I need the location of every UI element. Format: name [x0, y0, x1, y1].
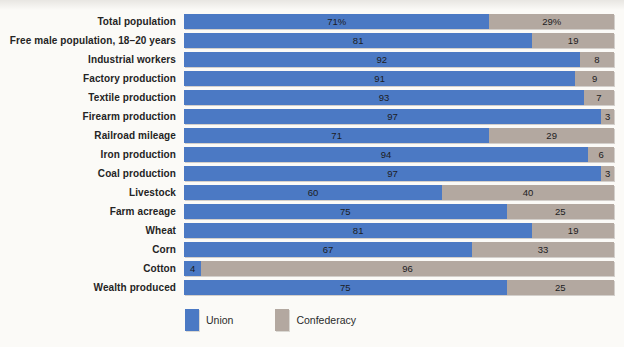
bar-track: 919 [184, 71, 614, 86]
confederacy-value-label: 9 [592, 71, 597, 86]
union-value-label: 97 [387, 109, 398, 124]
category-label: Livestock [6, 187, 184, 198]
bar-track: 8119 [184, 33, 614, 48]
chart-row: Iron production946 [6, 147, 614, 162]
bar-track: 6040 [184, 185, 614, 200]
confederacy-value-label: 3 [605, 166, 610, 181]
category-label: Factory production [6, 73, 184, 84]
confederacy-value-label: 7 [596, 90, 601, 105]
category-label: Cotton [6, 263, 184, 274]
category-label: Total population [6, 16, 184, 27]
chart-row: Wheat8119 [6, 223, 614, 238]
union-bar-segment: 92 [184, 52, 580, 67]
chart-row: Wealth produced7525 [6, 280, 614, 295]
chart-row: Free male population, 18–20 years8119 [6, 33, 614, 48]
confederacy-value-label: 33 [538, 242, 549, 257]
bar-track: 7525 [184, 204, 614, 219]
union-value-label: 92 [377, 52, 388, 67]
confederacy-value-label: 3 [605, 109, 610, 124]
category-label: Coal production [6, 168, 184, 179]
category-label: Wealth produced [6, 282, 184, 293]
chart-row: Industrial workers928 [6, 52, 614, 67]
confederacy-bar-segment: 40 [442, 185, 614, 200]
union-value-label: 71% [327, 14, 346, 29]
category-label: Corn [6, 244, 184, 255]
bar-track: 7129 [184, 128, 614, 143]
union-value-label: 93 [379, 90, 390, 105]
bar-track: 6733 [184, 242, 614, 257]
category-label: Firearm production [6, 111, 184, 122]
confederacy-value-label: 40 [523, 185, 534, 200]
union-bar-segment: 91 [184, 71, 575, 86]
chart-row: Livestock6040 [6, 185, 614, 200]
chart-row: Coal production973 [6, 166, 614, 181]
figure-caption-clipped: RESOURCES OF THE UNION AND THE CONFEDERA… [0, 342, 590, 347]
union-value-label: 4 [190, 261, 195, 276]
union-bar-segment: 81 [184, 33, 532, 48]
confederacy-bar-segment: 19 [532, 33, 614, 48]
union-bar-segment: 75 [184, 280, 507, 295]
union-value-label: 94 [381, 147, 392, 162]
category-label: Textile production [6, 92, 184, 103]
bar-track: 946 [184, 147, 614, 162]
bar-track: 8119 [184, 223, 614, 238]
union-legend-label: Union [206, 314, 233, 326]
union-value-label: 91 [374, 71, 385, 86]
chart-row: Total population71%29% [6, 14, 614, 29]
confederacy-bar-segment: 7 [584, 90, 614, 105]
union-bar-segment: 67 [184, 242, 472, 257]
confederacy-value-label: 96 [402, 261, 413, 276]
category-label: Industrial workers [6, 54, 184, 65]
confederacy-bar-segment: 6 [588, 147, 614, 162]
union-value-label: 71 [331, 128, 342, 143]
confederacy-bar-segment: 25 [507, 204, 615, 219]
bar-track: 71%29% [184, 14, 614, 29]
chart-row: Textile production937 [6, 90, 614, 105]
confederacy-bar-segment: 25 [507, 280, 615, 295]
confederacy-bar-segment: 29% [489, 14, 614, 29]
chart-row: Firearm production973 [6, 109, 614, 124]
bar-track: 973 [184, 109, 614, 124]
chart-row: Corn6733 [6, 242, 614, 257]
bar-track: 496 [184, 261, 614, 276]
confederacy-value-label: 6 [598, 147, 603, 162]
category-label: Free male population, 18–20 years [6, 35, 184, 46]
union-value-label: 75 [340, 280, 351, 295]
chart-row: Cotton496 [6, 261, 614, 276]
union-bar-segment: 75 [184, 204, 507, 219]
union-value-label: 97 [387, 166, 398, 181]
bar-track: 928 [184, 52, 614, 67]
confederacy-value-label: 25 [555, 280, 566, 295]
confederacy-bar-segment: 3 [601, 109, 614, 124]
confederacy-value-label: 8 [594, 52, 599, 67]
chart-row: Factory production919 [6, 71, 614, 86]
bar-track: 937 [184, 90, 614, 105]
confederacy-bar-segment: 29 [489, 128, 614, 143]
union-bar-segment: 94 [184, 147, 588, 162]
union-value-label: 60 [308, 185, 319, 200]
confederacy-value-label: 19 [568, 33, 579, 48]
confederacy-bar-segment: 96 [201, 261, 614, 276]
category-label: Railroad mileage [6, 130, 184, 141]
union-bar-segment: 93 [184, 90, 584, 105]
bar-track: 7525 [184, 280, 614, 295]
confederacy-value-label: 19 [568, 223, 579, 238]
chart-legend: Union Confederacy [185, 309, 398, 331]
confederacy-bar-segment: 33 [472, 242, 614, 257]
union-bar-segment: 97 [184, 166, 601, 181]
category-label: Wheat [6, 225, 184, 236]
confederacy-legend-swatch [275, 309, 289, 331]
confederacy-value-label: 29 [546, 128, 557, 143]
union-value-label: 81 [353, 33, 364, 48]
union-bar-segment: 71 [184, 128, 489, 143]
confederacy-value-label: 25 [555, 204, 566, 219]
confederacy-bar-segment: 3 [601, 166, 614, 181]
union-bar-segment: 71% [184, 14, 489, 29]
union-bar-segment: 4 [184, 261, 201, 276]
scan-edge-shading [0, 0, 624, 10]
chart-row: Railroad mileage7129 [6, 128, 614, 143]
union-bar-segment: 81 [184, 223, 532, 238]
category-label: Iron production [6, 149, 184, 160]
confederacy-bar-segment: 8 [580, 52, 614, 67]
union-value-label: 81 [353, 223, 364, 238]
